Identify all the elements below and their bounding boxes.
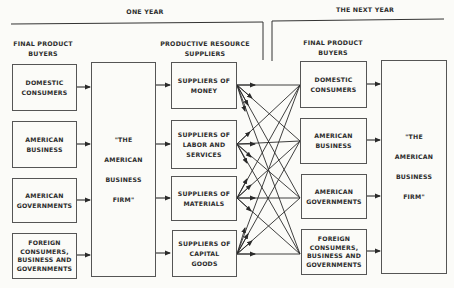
- next-buyer-american-business: AMERICAN BUSINESS: [300, 118, 367, 164]
- supplier-materials: SUPPLIERS OF MATERIALS: [171, 176, 237, 221]
- box-label: SUPPLIERS OF MATERIALS: [178, 189, 230, 209]
- box-label: DOMESTIC CONSUMERS: [311, 75, 357, 95]
- supplier-capital-goods: SUPPLIERS OF CAPITAL GOODS: [172, 230, 237, 277]
- final-product-buyers-heading-left: FINAL PRODUCT BUYERS: [6, 39, 80, 58]
- next-buyer-domestic-consumers: DOMESTIC CONSUMERS: [300, 61, 367, 108]
- box-label: DOMESTIC CONSUMERS: [22, 78, 68, 98]
- next-buyer-foreign: FOREIGN CONSUMERS, BUSINESS AND GOVERNME…: [301, 229, 367, 275]
- next-year-buyer-to-firm-arrows: [366, 84, 380, 251]
- american-business-firm-box: "THE AMERICAN BUSINESS FIRM": [91, 62, 156, 277]
- final-product-buyers-heading-right: FINAL PRODUCT BUYERS: [293, 38, 373, 57]
- supplier-labor-services: SUPPLIERS OF LABOR AND SERVICES: [171, 120, 237, 169]
- box-label: "THE AMERICAN BUSINESS FIRM": [395, 132, 433, 202]
- box-label: SUPPLIERS OF CAPITAL GOODS: [178, 239, 230, 269]
- box-label: SUPPLIERS OF MONEY: [178, 76, 230, 96]
- box-label: AMERICAN BUSINESS: [25, 135, 63, 155]
- buyer-to-firm-arrows: [76, 87, 90, 255]
- buyer-american-governments: AMERICAN GOVERNMENTS: [12, 178, 77, 223]
- next-year-label: THE NEXT YEAR: [320, 5, 410, 15]
- productive-resource-suppliers-heading: PRODUCTIVE RESOURCE SUPPLIERS: [150, 39, 260, 58]
- box-label: SUPPLIERS OF LABOR AND SERVICES: [178, 130, 230, 160]
- box-label: FOREIGN CONSUMERS, BUSINESS AND GOVERNME…: [17, 239, 73, 273]
- next-buyer-american-governments: AMERICAN GOVERNMENTS: [301, 174, 367, 219]
- box-label: AMERICAN GOVERNMENTS: [17, 191, 73, 211]
- one-year-label: ONE YEAR: [100, 7, 190, 17]
- box-label: FOREIGN CONSUMERS, BUSINESS AND GOVERNME…: [306, 235, 362, 269]
- box-label: AMERICAN GOVERNMENTS: [306, 187, 362, 207]
- firm-to-supplier-arrows: [155, 85, 170, 253]
- next-year-american-business-firm-box: "THE AMERICAN BUSINESS FIRM": [381, 60, 447, 274]
- supplier-to-buyer-crossing-lines: [237, 85, 300, 254]
- box-label: "THE AMERICAN BUSINESS FIRM": [104, 135, 142, 205]
- buyer-american-business: AMERICAN BUSINESS: [12, 121, 77, 168]
- buyer-domestic-consumers: DOMESTIC CONSUMERS: [12, 64, 77, 111]
- box-label: AMERICAN BUSINESS: [314, 131, 352, 151]
- supplier-money: SUPPLIERS OF MONEY: [171, 62, 237, 109]
- buyer-foreign: FOREIGN CONSUMERS, BUSINESS AND GOVERNME…: [12, 233, 77, 279]
